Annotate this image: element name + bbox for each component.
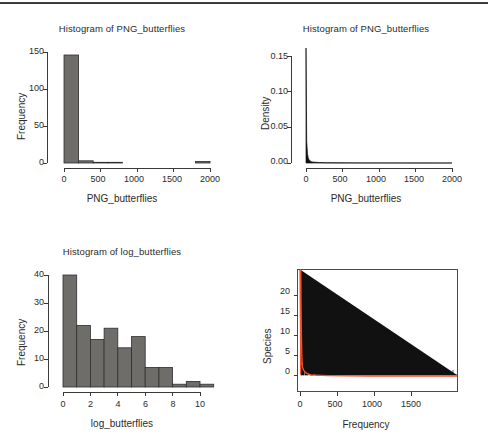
density-curve [306,48,452,163]
plot-area-top-left [0,0,244,224]
histogram-bar [63,275,77,387]
histogram-bar [77,325,91,387]
histogram-bar [118,348,132,387]
histogram-bar [93,162,108,163]
plot-area-top-right [244,0,488,224]
histogram-bar [186,381,200,387]
histogram-bar [195,162,210,164]
histogram-bar [64,55,79,163]
plot-area-bottom-left [0,224,244,448]
panel-species-vs-frequency: Species Frequency 20 15 10 5 0 0 500 100… [244,224,488,448]
histogram-bar [104,328,118,387]
panel-histogram-png-density: Histogram of PNG_butterflies Density PNG… [244,0,488,224]
histogram-bar [90,339,104,387]
histogram-bar [200,384,214,387]
histogram-bar [145,367,159,387]
histogram-bar [159,367,173,387]
panel-histogram-log-frequency: Histogram of log_butterflies Frequency l… [0,224,244,448]
histogram-bar [108,162,123,163]
histogram-bar [132,337,146,387]
histogram-bar [79,161,94,163]
panel-histogram-png-frequency: Histogram of PNG_butterflies Frequency P… [0,0,244,224]
observed-series [300,270,457,376]
histogram-bar [173,384,187,387]
plot-area-bottom-right [244,224,488,448]
